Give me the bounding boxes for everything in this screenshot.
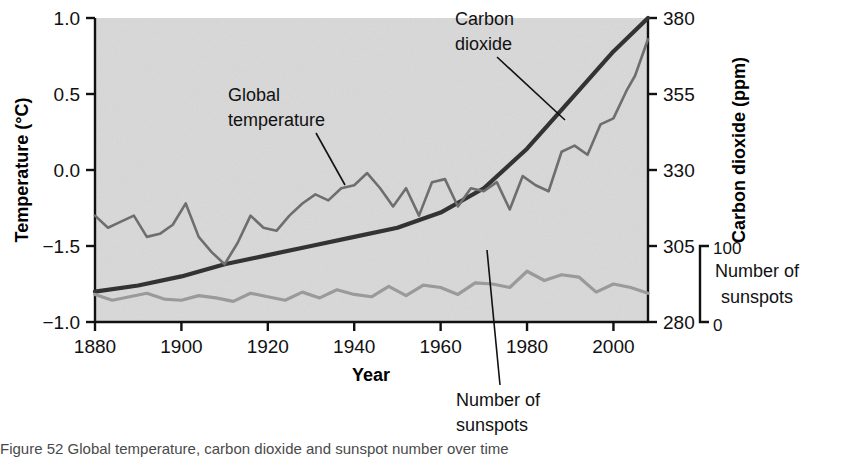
- climate-figure: 1.00.50.0−1.5−1.0 380355330305280 188019…: [0, 0, 853, 457]
- y-axis-left-tick-label: −1.5: [42, 236, 80, 257]
- y-axis-left-tick-label: 0.0: [54, 160, 80, 181]
- x-axis-tick-label: 1960: [419, 336, 461, 357]
- x-axis-tick-label: 2000: [592, 336, 634, 357]
- y-axis-right-tick-label: 305: [663, 236, 695, 257]
- annotation-carbon-dioxide-line-2: dioxide: [455, 34, 512, 54]
- sunspot-label-line-2: sunspots: [721, 287, 793, 307]
- x-axis-tick-label: 1940: [333, 336, 375, 357]
- y-axis-right-tick-label: 355: [663, 84, 695, 105]
- sunspot-label-line-1: Number of: [715, 261, 800, 281]
- x-axis-tick-label: 1880: [74, 336, 116, 357]
- chart-canvas: 1.00.50.0−1.5−1.0 380355330305280 188019…: [0, 0, 853, 457]
- x-axis-tick-label: 1920: [247, 336, 289, 357]
- sunspot-tick-label-0: 0: [713, 316, 722, 335]
- y-axis-right-tick-label: 280: [663, 312, 695, 333]
- figure-caption: Figure 52 Global temperature, carbon dio…: [0, 440, 853, 457]
- annotation-global-temperature-line-2: temperature: [228, 110, 325, 130]
- x-axis-tick-label: 1900: [160, 336, 202, 357]
- annotation-number-of-sunspots-line-2: sunspots: [456, 415, 528, 435]
- y-axis-right-title: Carbon dioxide (ppm): [729, 57, 749, 243]
- y-axis-left-tick-label: 1.0: [54, 8, 80, 29]
- annotation-number-of-sunspots-line-1: Number of: [456, 390, 541, 410]
- y-axis-left-title: Temperature (°C): [12, 98, 32, 243]
- y-axis-right-tick-label: 380: [663, 8, 695, 29]
- y-axis-right-tick-label: 330: [663, 160, 695, 181]
- annotation-carbon-dioxide-line-1: Carbon: [455, 9, 514, 29]
- y-axis-left-tick-label: −1.0: [42, 312, 80, 333]
- x-axis-tick-label: 1980: [506, 336, 548, 357]
- x-axis-title: Year: [352, 365, 390, 385]
- y-axis-left-tick-label: 0.5: [54, 84, 80, 105]
- annotation-global-temperature-line-1: Global: [228, 85, 280, 105]
